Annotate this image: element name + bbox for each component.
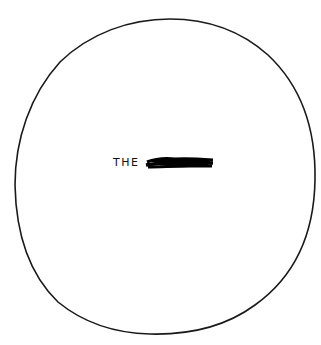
caption-text: THE [113, 157, 139, 169]
circle-outline [15, 19, 315, 334]
redaction-scribble [146, 159, 213, 167]
hand-drawn-circle [0, 0, 321, 345]
